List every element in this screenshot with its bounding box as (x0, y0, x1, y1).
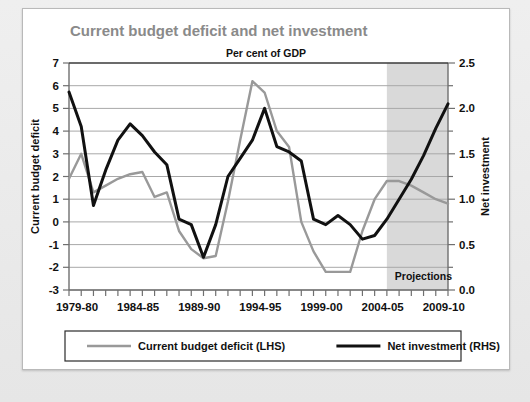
chart-legend: Current budget deficit (LHS)Net investme… (65, 331, 500, 361)
left-tick-label: 1 (53, 193, 60, 205)
per-cent-of-gdp-annotation: Per cent of GDP (226, 47, 306, 59)
left-axis-tick-labels: 76543210-1-2-3 (49, 57, 60, 296)
legend-label-1: Net investment (RHS) (387, 340, 500, 352)
left-tick-label: -2 (49, 261, 59, 273)
left-axis-ticks (63, 63, 69, 290)
left-tick-label: 4 (53, 125, 60, 137)
left-tick-label: 3 (53, 148, 59, 160)
left-tick-label: 0 (53, 216, 59, 228)
left-axis-title: Current budget deficit (29, 119, 41, 234)
x-tick-label: 1989-90 (178, 301, 220, 313)
left-tick-label: -3 (49, 284, 59, 296)
x-tick-label: 2004-05 (362, 301, 405, 313)
projections-annotation: Projections (395, 270, 452, 282)
left-tick-label: 6 (53, 80, 59, 92)
right-axis-ticks (448, 63, 455, 290)
right-tick-label: 1.5 (459, 148, 476, 160)
left-tick-label: 2 (53, 171, 59, 183)
right-tick-label: 0.5 (459, 239, 476, 251)
right-axis-title: Net investment (479, 137, 491, 216)
x-axis-tick-labels: 1979-801984-851989-901994-951999-002004-… (56, 301, 465, 313)
left-tick-label: -1 (49, 239, 60, 251)
chart-title: Current budget deficit and net investmen… (70, 22, 368, 39)
right-tick-label: 0.0 (459, 284, 475, 296)
x-tick-label: 1979-80 (56, 301, 98, 313)
x-tick-label: 1994-95 (239, 301, 282, 313)
right-tick-label: 2.5 (459, 57, 476, 69)
x-tick-label: 1999-00 (300, 301, 342, 313)
x-axis-ticks (69, 290, 448, 296)
right-tick-label: 2.0 (459, 102, 475, 114)
x-tick-label: 1984-85 (117, 301, 160, 313)
left-tick-label: 7 (53, 57, 59, 69)
legend-label-0: Current budget deficit (LHS) (138, 340, 286, 352)
right-tick-label: 1.0 (459, 193, 475, 205)
legend-items-group: Current budget deficit (LHS)Net investme… (87, 340, 500, 352)
right-axis-tick-labels: 2.52.01.51.00.50.0 (459, 57, 476, 296)
left-tick-label: 5 (53, 102, 60, 114)
budget-deficit-net-investment-chart: 76543210-1-2-3 2.52.01.51.00.50.0 1979-8… (23, 9, 509, 369)
figure-outer-background: 76543210-1-2-3 2.52.01.51.00.50.0 1979-8… (0, 0, 530, 402)
figure-panel: 76543210-1-2-3 2.52.01.51.00.50.0 1979-8… (22, 8, 510, 370)
x-tick-label: 2009-10 (423, 301, 465, 313)
